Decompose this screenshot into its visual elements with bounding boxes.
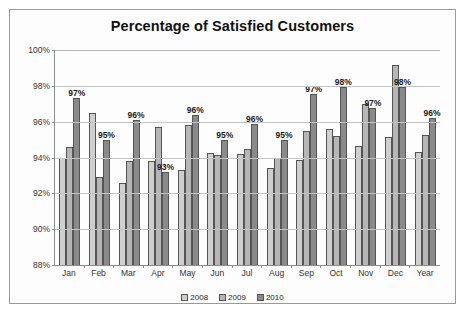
x-axis-label-feb: Feb bbox=[84, 268, 114, 278]
y-axis-tick-label: 98% bbox=[33, 81, 50, 91]
bar-data-label: 97% bbox=[68, 88, 85, 98]
y-axis-tick-label: 90% bbox=[33, 224, 50, 234]
gridline bbox=[55, 229, 440, 230]
bar-2009-dec[interactable] bbox=[392, 65, 399, 265]
y-axis-tick-mark bbox=[52, 86, 55, 87]
bar-2009-year[interactable] bbox=[422, 135, 429, 265]
x-axis-label-jan: Jan bbox=[54, 268, 84, 278]
bar-data-label: 96% bbox=[187, 105, 204, 115]
bar-2008-sep[interactable] bbox=[296, 160, 303, 265]
bar-2010-jan[interactable]: 97% bbox=[73, 98, 80, 265]
x-axis-label-apr: Apr bbox=[143, 268, 173, 278]
legend-swatch-icon bbox=[219, 294, 226, 301]
bar-2009-may[interactable] bbox=[185, 125, 192, 265]
y-axis-tick-mark bbox=[52, 122, 55, 123]
legend-swatch-icon bbox=[257, 294, 264, 301]
x-axis-label-oct: Oct bbox=[321, 268, 351, 278]
bar-data-label: 95% bbox=[276, 130, 293, 140]
bar-2008-apr[interactable] bbox=[148, 161, 155, 265]
chart-title: Percentage of Satisfied Customers bbox=[10, 18, 455, 34]
y-axis-tick-label: 92% bbox=[33, 188, 50, 198]
bar-2010-nov[interactable]: 97% bbox=[369, 108, 376, 265]
legend-label: 2010 bbox=[266, 293, 284, 302]
bar-2010-jul[interactable]: 96% bbox=[251, 124, 258, 265]
bar-2009-apr[interactable] bbox=[155, 127, 162, 265]
y-axis-tick-mark bbox=[52, 50, 55, 51]
x-axis-label-year: Year bbox=[410, 268, 440, 278]
chart-frame: Percentage of Satisfied Customers 97%95%… bbox=[9, 9, 456, 304]
gridline bbox=[55, 50, 440, 51]
bar-2008-jul[interactable] bbox=[237, 154, 244, 265]
x-axis-label-jun: Jun bbox=[202, 268, 232, 278]
x-axis-label-may: May bbox=[173, 268, 203, 278]
bar-2010-apr[interactable]: 93% bbox=[162, 172, 169, 265]
legend-item-2010[interactable]: 2010 bbox=[257, 293, 284, 302]
bar-data-label: 93% bbox=[157, 162, 174, 172]
x-axis-label-aug: Aug bbox=[262, 268, 292, 278]
x-axis-label-nov: Nov bbox=[351, 268, 381, 278]
x-axis-label-mar: Mar bbox=[113, 268, 143, 278]
y-axis-tick-label: 96% bbox=[33, 117, 50, 127]
bar-2008-feb[interactable] bbox=[89, 113, 96, 265]
legend-item-2008[interactable]: 2008 bbox=[181, 293, 208, 302]
gridline bbox=[55, 86, 440, 87]
bar-2008-mar[interactable] bbox=[119, 183, 126, 265]
bar-2009-sep[interactable] bbox=[303, 131, 310, 265]
gridline bbox=[55, 122, 440, 123]
bar-2009-jun[interactable] bbox=[214, 155, 221, 265]
bar-2010-sep[interactable]: 97% bbox=[310, 94, 317, 265]
bar-2009-feb[interactable] bbox=[96, 177, 103, 265]
legend-item-2009[interactable]: 2009 bbox=[219, 293, 246, 302]
bar-2010-year[interactable]: 96% bbox=[429, 118, 436, 265]
bar-data-label: 96% bbox=[424, 108, 441, 118]
bar-2009-aug[interactable] bbox=[274, 158, 281, 266]
bar-data-label: 95% bbox=[216, 130, 233, 140]
bar-2008-aug[interactable] bbox=[267, 168, 274, 265]
bar-2008-jun[interactable] bbox=[207, 153, 214, 265]
bar-2010-oct[interactable]: 98% bbox=[340, 87, 347, 265]
bar-data-label: 96% bbox=[246, 114, 263, 124]
bar-2008-may[interactable] bbox=[178, 170, 185, 265]
bar-2008-oct[interactable] bbox=[326, 129, 333, 265]
chart-legend: 200820092010 bbox=[10, 293, 455, 302]
plot-area: 97%95%96%93%96%95%96%95%97%98%97%98%96% … bbox=[54, 50, 440, 266]
gridline bbox=[55, 193, 440, 194]
legend-label: 2008 bbox=[190, 293, 208, 302]
bar-2009-jan[interactable] bbox=[66, 147, 73, 265]
legend-label: 2009 bbox=[228, 293, 246, 302]
bar-2008-nov[interactable] bbox=[355, 146, 362, 265]
bar-data-label: 95% bbox=[98, 130, 115, 140]
y-axis-tick-label: 88% bbox=[33, 260, 50, 270]
bar-2009-nov[interactable] bbox=[362, 104, 369, 265]
bar-2008-year[interactable] bbox=[415, 152, 422, 265]
bar-2009-jul[interactable] bbox=[244, 149, 251, 265]
bar-2010-may[interactable]: 96% bbox=[192, 115, 199, 266]
y-axis-tick-label: 100% bbox=[28, 45, 50, 55]
y-axis-tick-label: 94% bbox=[33, 153, 50, 163]
x-axis-label-sep: Sep bbox=[292, 268, 322, 278]
y-axis-tick-mark bbox=[52, 265, 55, 266]
y-axis-tick-mark bbox=[52, 158, 55, 159]
y-axis-tick-mark bbox=[52, 229, 55, 230]
legend-swatch-icon bbox=[181, 294, 188, 301]
bar-2008-dec[interactable] bbox=[385, 137, 392, 265]
bar-data-label: 96% bbox=[128, 110, 145, 120]
bar-2010-dec[interactable]: 98% bbox=[399, 87, 406, 265]
x-axis-labels: JanFebMarAprMayJunJulAugSepOctNovDecYear bbox=[54, 268, 440, 278]
bar-2009-oct[interactable] bbox=[333, 136, 340, 265]
x-axis-label-dec: Dec bbox=[381, 268, 411, 278]
bar-data-label: 97% bbox=[364, 98, 381, 108]
x-axis-label-jul: Jul bbox=[232, 268, 262, 278]
y-axis-tick-mark bbox=[52, 193, 55, 194]
bar-2008-jan[interactable] bbox=[59, 158, 66, 266]
gridline bbox=[55, 158, 440, 159]
bar-2009-mar[interactable] bbox=[126, 161, 133, 265]
